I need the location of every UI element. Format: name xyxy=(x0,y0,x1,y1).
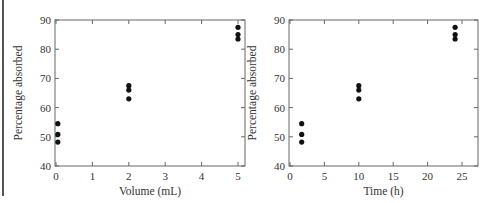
y-tick-label: 40 xyxy=(40,160,52,172)
y-tick-label: 90 xyxy=(40,14,52,26)
x-tick-label: 0 xyxy=(287,170,293,182)
y-tick-label: 50 xyxy=(274,131,286,143)
x-tick-label: 1 xyxy=(90,170,96,182)
y-tick-label: 80 xyxy=(40,43,52,55)
y-tick-label: 60 xyxy=(274,102,286,114)
y-tick-label: 40 xyxy=(274,160,286,172)
chart-1: 405060708090012345Volume (mL)Percentage … xyxy=(12,14,245,198)
data-point xyxy=(356,87,361,92)
charts-canvas: 405060708090012345Volume (mL)Percentage … xyxy=(0,0,493,203)
data-point xyxy=(235,36,240,41)
y-tick-label: 70 xyxy=(274,72,286,84)
y-tick-label: 90 xyxy=(274,14,286,26)
x-tick-label: 20 xyxy=(422,170,434,182)
x-tick-label: 5 xyxy=(322,170,328,182)
x-tick-label: 25 xyxy=(457,170,469,182)
data-point xyxy=(453,36,458,41)
data-point xyxy=(55,139,60,144)
x-tick-label: 10 xyxy=(353,170,365,182)
y-axis-label: Percentage absorbed xyxy=(246,45,259,140)
x-tick-label: 15 xyxy=(388,170,400,182)
plot-frame xyxy=(289,20,478,166)
data-point xyxy=(126,87,131,92)
data-point xyxy=(126,96,131,101)
y-tick-label: 70 xyxy=(40,72,52,84)
y-tick-label: 80 xyxy=(274,43,286,55)
data-point xyxy=(356,96,361,101)
x-tick-label: 2 xyxy=(126,170,132,182)
chart-2: 4050607080900510152025Time (h)Percentage… xyxy=(246,14,478,198)
data-point xyxy=(55,121,60,126)
x-axis-label: Time (h) xyxy=(363,185,403,198)
y-tick-label: 60 xyxy=(40,102,52,114)
data-point xyxy=(55,132,60,137)
x-tick-label: 4 xyxy=(199,170,205,182)
data-point xyxy=(453,25,458,30)
data-point xyxy=(235,25,240,30)
y-tick-label: 50 xyxy=(40,131,52,143)
x-tick-label: 3 xyxy=(162,170,168,182)
x-tick-label: 0 xyxy=(53,170,59,182)
plot-frame xyxy=(55,20,245,166)
y-axis-label: Percentage absorbed xyxy=(12,45,25,140)
data-point xyxy=(299,132,304,137)
x-tick-label: 5 xyxy=(235,170,241,182)
data-point xyxy=(299,139,304,144)
x-axis-label: Volume (mL) xyxy=(119,185,181,198)
data-point xyxy=(299,121,304,126)
